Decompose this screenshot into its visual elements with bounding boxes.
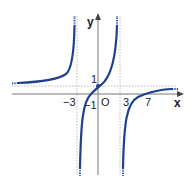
- origin-label: O: [101, 96, 110, 108]
- tick-label-y1: 1: [91, 73, 97, 85]
- tick-label-neg1: −1: [84, 99, 97, 111]
- y-axis-arrow-icon: [95, 13, 101, 20]
- tick-label-7: 7: [145, 96, 151, 108]
- curve-left-branch: [18, 26, 75, 83]
- curve-left-tail: [12, 83, 18, 84]
- x-axis-label: x: [174, 96, 181, 110]
- tick-label-3: 3: [123, 96, 129, 108]
- y-axis-label: y: [87, 15, 94, 29]
- tick-label-neg3: −3: [63, 96, 76, 108]
- function-graph: y x O −3 −1 3 7 1: [0, 0, 189, 180]
